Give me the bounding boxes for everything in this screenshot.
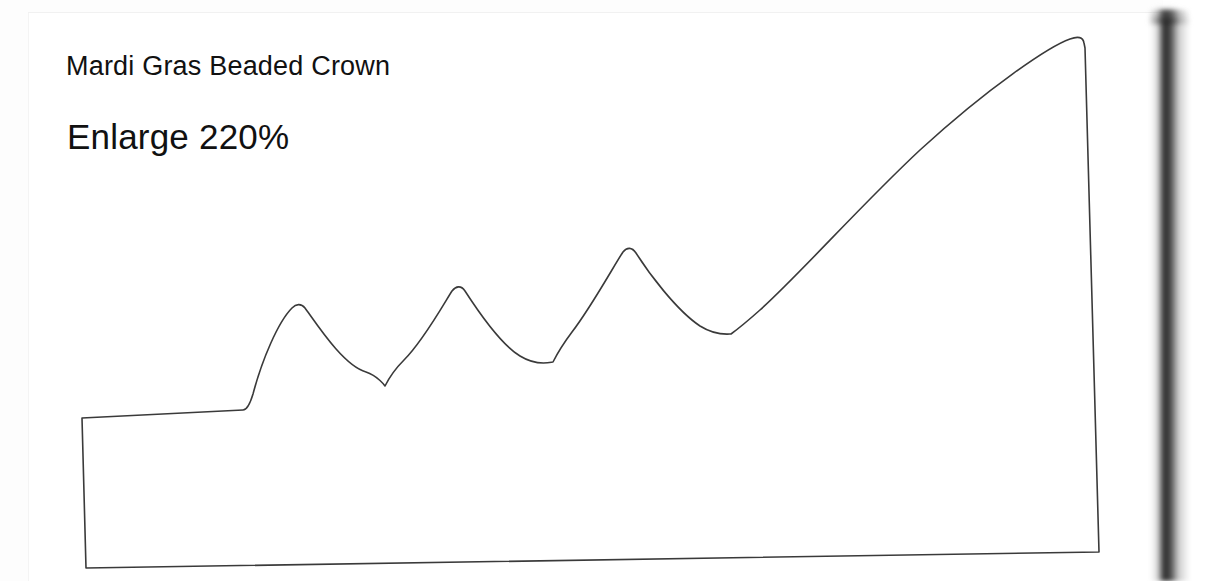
enlarge-instruction: Enlarge 220% — [67, 117, 289, 157]
pattern-title: Mardi Gras Beaded Crown — [66, 50, 390, 82]
book-spine-shadow — [1150, 10, 1190, 581]
scanned-page: Mardi Gras Beaded Crown Enlarge 220% — [0, 0, 1219, 581]
book-spine-shadow-cap — [1150, 6, 1190, 24]
crown-pattern-drawing — [0, 0, 1219, 581]
